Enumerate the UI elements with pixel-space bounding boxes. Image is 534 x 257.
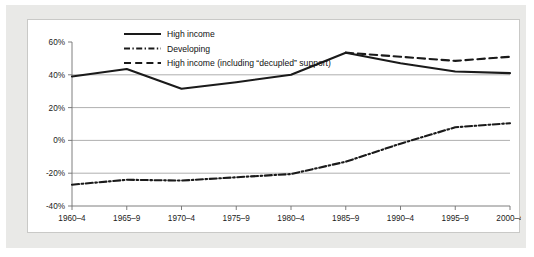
y-axis-tick-label: -20% [46, 169, 65, 178]
y-axis-tick-label: -40% [46, 202, 65, 211]
x-axis-tick-label: 1970–4 [168, 214, 196, 223]
series-line-2 [72, 123, 510, 184]
x-axis: 1960–41965–91970–41975–91980–41985–91990… [58, 206, 521, 223]
y-axis-tick-label: 40% [49, 71, 65, 80]
chart-legend: High incomeDevelopingHigh income (includ… [124, 29, 331, 68]
x-axis-tick-label: 1990–4 [387, 214, 415, 223]
y-axis-tick-label: 20% [49, 104, 65, 113]
legend-label-2: Developing [167, 44, 210, 54]
x-axis-tick-label: 2000–4 [496, 214, 521, 223]
figure-container: 60%40%20%0%-20%-40% 1960–41965–91970–419… [0, 0, 534, 257]
figure-frame: 60%40%20%0%-20%-40% 1960–41965–91970–419… [6, 5, 526, 248]
x-axis-tick-label: 1960–4 [58, 214, 86, 223]
plot-area: 60%40%20%0%-20%-40% 1960–41965–91970–419… [28, 20, 521, 234]
line-chart: 60%40%20%0%-20%-40% 1960–41965–91970–419… [28, 20, 521, 234]
x-axis-tick-label: 1975–9 [223, 214, 251, 223]
x-axis-tick-label: 1965–9 [113, 214, 141, 223]
gridlines-group [72, 75, 510, 173]
y-axis: 60%40%20%0%-20%-40% [46, 38, 72, 211]
legend-label-1: High income [167, 29, 215, 39]
legend-label-3: High income (including “decupled” suppor… [167, 58, 331, 68]
y-axis-tick-label: 0% [53, 136, 65, 145]
x-axis-tick-label: 1985–9 [332, 214, 360, 223]
x-axis-tick-label: 1995–9 [442, 214, 470, 223]
chart-panel: 60%40%20%0%-20%-40% 1960–41965–91970–419… [27, 19, 520, 233]
y-axis-tick-label: 60% [49, 38, 65, 47]
series-group [72, 53, 510, 185]
x-axis-tick-label: 1980–4 [277, 214, 305, 223]
